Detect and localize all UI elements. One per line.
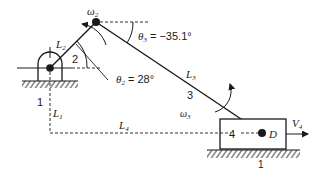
ground-1-left-label: 1 [37, 96, 43, 108]
point-d-label: D [268, 128, 277, 140]
slider-crank-diagram: ω2 L2 2 θ3 = −35.1° θ2 = 28° L3 3 ω3 1 L… [0, 0, 324, 179]
v4-label: V4 [292, 117, 303, 131]
link-3-number: 3 [187, 89, 193, 101]
pivot-o2 [46, 64, 54, 72]
omega2-label: ω2 [87, 5, 99, 19]
theta3-label: θ3 = −35.1° [138, 30, 192, 44]
link-4-number: 4 [229, 128, 235, 140]
omega2-arrow-icon [82, 24, 106, 45]
omega3-arrow-icon [215, 84, 231, 112]
pin-d [258, 129, 266, 137]
l1-label: L1 [52, 107, 63, 121]
ground-1-right-label: 1 [258, 159, 264, 170]
theta3-arc [127, 22, 133, 43]
theta2-leader [76, 44, 108, 80]
ground-right [207, 150, 300, 158]
omega3-label: ω3 [180, 108, 191, 121]
link-2-number: 2 [72, 53, 78, 65]
crank-pivot-support [17, 47, 100, 81]
l4-label: L4 [118, 119, 129, 133]
l3-label: L3 [185, 68, 196, 82]
l2-label: L2 [55, 38, 66, 52]
pin-b [92, 18, 100, 26]
theta2-label: θ2 = 28° [116, 73, 154, 87]
